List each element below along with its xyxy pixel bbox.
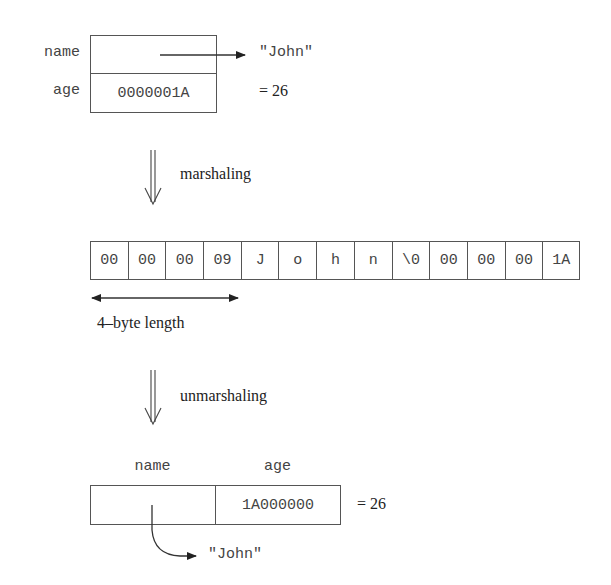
- arrows-overlay: [0, 0, 611, 585]
- double-down-arrow-icon: [145, 150, 161, 204]
- double-down-arrow-icon: [145, 370, 161, 424]
- curved-pointer-arrow-icon: [152, 505, 196, 556]
